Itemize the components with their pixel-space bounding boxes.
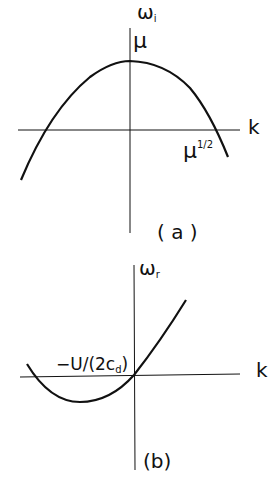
panel-a-caption: ( a ) (157, 222, 198, 242)
panel-a-y-axis-label: ωi (137, 2, 157, 24)
panel-b-x-axis (20, 374, 240, 377)
panel-a-peak-label: μ (133, 30, 147, 52)
panel-b-plot (20, 265, 240, 470)
omega-symbol: ω (139, 256, 156, 280)
exponent-half: 1/2 (197, 139, 213, 150)
panel-b-y-axis-label: ωr (139, 258, 160, 280)
subscript-i: i (154, 13, 157, 24)
panel-a-plot (18, 28, 240, 233)
panel-b-y-axis (134, 265, 135, 470)
panel-b-slope-label: −U/(2cd) (56, 356, 128, 375)
mu-symbol: μ (183, 138, 197, 163)
omega-symbol: ω (137, 0, 154, 24)
panel-a-x-axis-label: k (248, 117, 260, 137)
panel-b-x-axis-label: k (256, 360, 268, 380)
diagram-canvas (0, 0, 279, 490)
slope-text: −U/(2c (56, 354, 115, 374)
panel-b-frequency-curve (27, 300, 186, 402)
panel-b-caption: (b) (143, 451, 171, 471)
subscript-r: r (156, 269, 160, 280)
slope-close-paren: ) (122, 354, 129, 374)
panel-a-root-label: μ1/2 (183, 140, 213, 162)
